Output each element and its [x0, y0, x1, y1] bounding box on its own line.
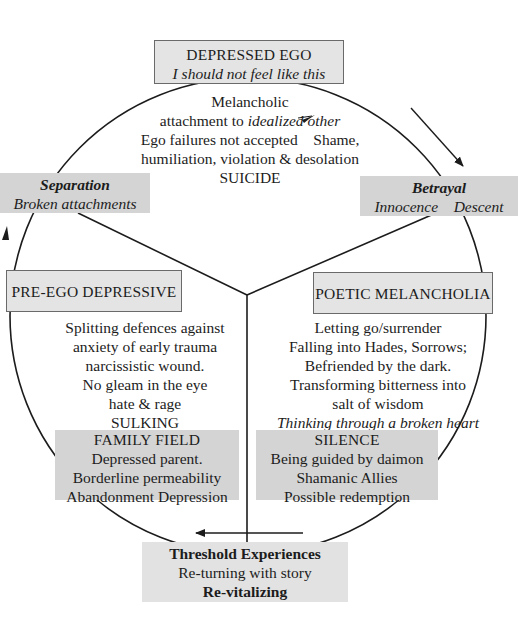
pre-ego-title: PRE-EGO DEPRESSIVE	[7, 282, 181, 301]
sector-line: humiliation, violation & desolation	[125, 149, 375, 168]
sector-line: Splitting defences against	[30, 318, 260, 337]
sector-line: Ego failures not accepted Shame,	[125, 130, 375, 149]
sector-line: Letting go/surrender	[258, 318, 498, 337]
poetic-melancholia-box: POETIC MELANCHOLIA	[313, 272, 493, 314]
pre-ego-sector-text: Splitting defences against anxiety of ea…	[30, 318, 260, 432]
betrayal-box: Betrayal Innocence Descent	[360, 176, 518, 216]
sector-text: attachment to	[160, 112, 248, 129]
sector-line: Melancholic	[125, 92, 375, 111]
silence-line: Possible redemption	[256, 487, 438, 506]
sector-line: hate & rage	[30, 394, 260, 413]
threshold-title: Threshold Experiences	[142, 544, 348, 563]
family-field-box: FAMILY FIELD Depressed parent. Borderlin…	[55, 430, 239, 500]
threshold-line-bold: Re-vitalizing	[142, 582, 348, 601]
family-field-line: Abandonment Depression	[55, 487, 239, 506]
sector-line: Transforming bitterness into	[258, 375, 498, 394]
separation-box: Separation Broken attachments	[0, 173, 150, 213]
betrayal-subtitle: Innocence Descent	[360, 197, 518, 216]
depressed-ego-subtitle: I should not feel like this	[155, 64, 343, 83]
betrayal-title: Betrayal	[360, 178, 518, 197]
sector-text-italic: idealized other	[248, 112, 341, 129]
sector-line: No gleam in the eye	[30, 375, 260, 394]
sector-line: narcissistic wound.	[30, 356, 260, 375]
separation-title: Separation	[0, 175, 150, 194]
sector-line: SUICIDE	[125, 168, 375, 187]
sector-line: Falling into Hades, Sorrows;	[258, 337, 498, 356]
descent-label: Descent	[454, 198, 504, 215]
silence-title: SILENCE	[256, 430, 438, 449]
depressed-ego-sector-text: Melancholic attachment to idealized othe…	[125, 92, 375, 187]
depressed-ego-box: DEPRESSED EGO I should not feel like thi…	[154, 40, 344, 84]
sector-text: Shame,	[313, 131, 359, 148]
separation-subtitle: Broken attachments	[0, 194, 150, 213]
silence-box: SILENCE Being guided by daimon Shamanic …	[256, 430, 438, 500]
arrow-left-side	[2, 226, 9, 240]
sector-line: Befriended by the dark.	[258, 356, 498, 375]
threshold-line: Re-turning with story	[142, 563, 348, 582]
family-field-line: Borderline permeability	[55, 468, 239, 487]
silence-line: Being guided by daimon	[256, 449, 438, 468]
pre-ego-depressive-box: PRE-EGO DEPRESSIVE	[6, 270, 182, 312]
family-field-title: FAMILY FIELD	[55, 430, 239, 449]
innocence-label: Innocence	[374, 198, 438, 215]
sector-line: anxiety of early trauma	[30, 337, 260, 356]
family-field-line: Depressed parent.	[55, 449, 239, 468]
sector-text: Ego failures not accepted	[141, 131, 298, 148]
clockwise-arrow-top-right	[411, 108, 463, 166]
sector-line: attachment to idealized other	[125, 111, 375, 130]
poetic-sector-text: Letting go/surrender Falling into Hades,…	[258, 318, 498, 432]
sector-line: salt of wisdom	[258, 394, 498, 413]
depressed-ego-title: DEPRESSED EGO	[155, 45, 343, 64]
threshold-experiences-box: Threshold Experiences Re-turning with st…	[142, 542, 348, 602]
poetic-title: POETIC MELANCHOLIA	[314, 284, 492, 303]
silence-line: Shamanic Allies	[256, 468, 438, 487]
